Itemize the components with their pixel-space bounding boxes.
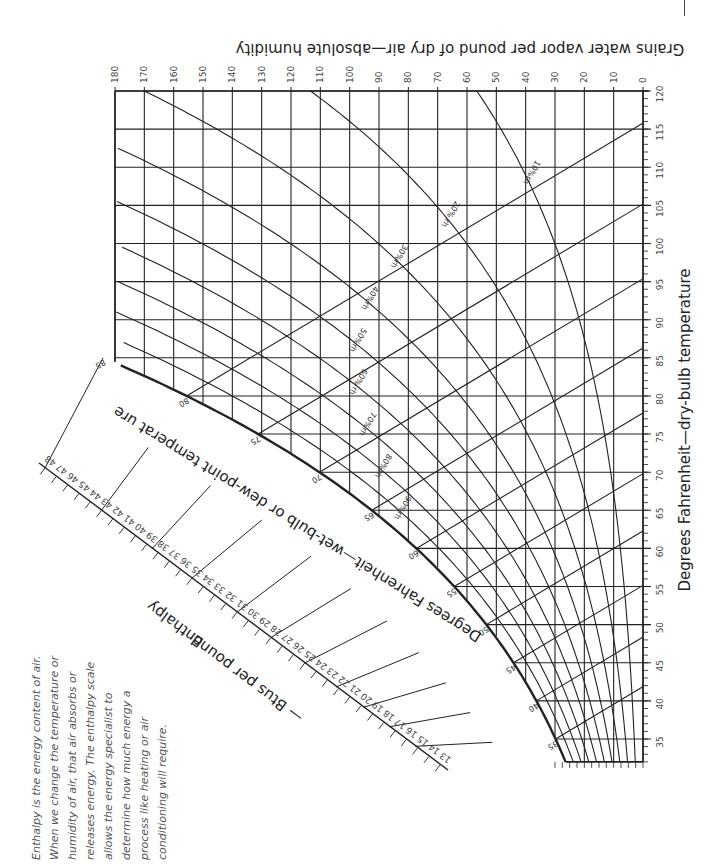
enthalpy-tick-label: 41 <box>122 513 137 528</box>
humidity-tick-label: 70 <box>433 71 443 83</box>
dry-bulb-tick-label: 35 <box>655 736 665 747</box>
dry-bulb-tick-label: 105 <box>655 200 665 217</box>
dry-bulb-tick-label: 70 <box>655 469 665 481</box>
dry-bulb-tick-label: 115 <box>655 124 665 141</box>
enthalpy-tick-label: 43 <box>99 496 114 511</box>
enthalpy-tick-label: 13 <box>438 750 453 765</box>
grid <box>115 87 651 768</box>
humidity-tick-label: 90 <box>374 71 384 83</box>
humidity-tick-label: 130 <box>257 66 267 83</box>
humidity-tick-label: 120 <box>286 66 296 83</box>
dry-bulb-tick-label: 100 <box>655 238 665 255</box>
dry-bulb-tick-label: 55 <box>655 584 665 595</box>
humidity-tick-label: 50 <box>491 71 501 83</box>
dry-bulb-tick-label: 90 <box>655 317 665 329</box>
enthalpy-tick-label: 35 <box>190 564 205 579</box>
humidity-tick-label: 0 <box>638 77 648 83</box>
enthalpy-tick-label: 32 <box>223 589 238 604</box>
humidity-tick-label: 30 <box>550 71 560 83</box>
enthalpy-tick-label: 27 <box>280 632 295 647</box>
enthalpy-tick-label: 42 <box>111 504 126 519</box>
humidity-tick-label: 10 <box>609 71 619 83</box>
humidity-tick-label: 80 <box>403 71 413 83</box>
dry-bulb-tick-label: 40 <box>655 698 665 710</box>
dry-bulb-tick-label: 45 <box>655 660 665 671</box>
rh-curves <box>116 91 635 762</box>
humidity-tick-label: 180 <box>110 66 120 83</box>
enthalpy-tick-label: 23 <box>325 666 340 681</box>
enthalpy-tick-label: 48 <box>43 453 58 468</box>
enthalpy-tick-label: 47 <box>54 462 69 477</box>
enthalpy-tick-label: 17 <box>393 716 408 731</box>
dry-bulb-tick-label: 80 <box>655 393 665 405</box>
enthalpy-tick-label: 25 <box>302 649 317 664</box>
humidity-tick-label: 60 <box>462 71 472 83</box>
dry-bulb-axis-title: Degrees Fahrenheit—dry-bulb temperature <box>676 269 694 592</box>
enthalpy-tick-label: 21 <box>348 682 363 697</box>
enthalpy-note: Enthalpy is the energy content of air. W… <box>28 650 172 860</box>
dry-bulb-tick-label: 95 <box>655 279 665 290</box>
dry-bulb-tick-label: 120 <box>655 85 665 102</box>
enthalpy-tick-label: 37 <box>167 547 182 562</box>
enthalpy-tick-label: 31 <box>235 598 250 613</box>
saturation-tick-label: 85 <box>94 358 107 371</box>
humidity-tick-label: 100 <box>345 66 355 83</box>
rh-curve-label: 60% rh <box>347 367 369 396</box>
saturation-curve <box>115 91 566 762</box>
humidity-tick-label: 20 <box>579 71 589 83</box>
dry-bulb-tick-label: 85 <box>655 355 665 366</box>
dry-bulb-tick-label: 60 <box>655 545 665 557</box>
humidity-tick-label: 110 <box>315 66 325 83</box>
dry-bulb-tick-label: 110 <box>655 161 665 178</box>
enthalpy-tick-label: 33 <box>212 581 227 596</box>
humidity-tick-label: 150 <box>198 66 208 83</box>
humidity-axis-title: Grains water vapor per pound of dry air—… <box>236 40 685 58</box>
enthalpy-tick-label: 45 <box>77 479 92 494</box>
dry-bulb-tick-label: 75 <box>655 431 665 442</box>
dry-bulb-tick-label: 65 <box>655 508 665 519</box>
humidity-tick-label: 40 <box>521 71 531 83</box>
dry-bulb-tick-label: 50 <box>655 622 665 634</box>
humidity-tick-label: 160 <box>169 66 179 83</box>
humidity-tick-label: 170 <box>139 66 149 83</box>
humidity-tick-label: 140 <box>227 66 237 83</box>
enthalpy-tick-label: 22 <box>336 674 351 689</box>
